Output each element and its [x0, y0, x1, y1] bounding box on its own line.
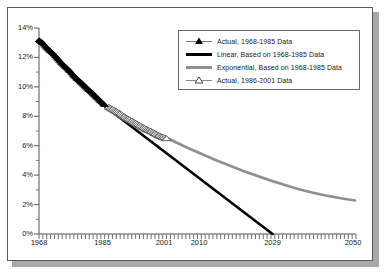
exponential-projection-line	[103, 105, 356, 201]
legend-row-actual-1968-1985: Actual, 1968-1985 Data	[184, 35, 355, 48]
chart-legend: Actual, 1968-1985 Data Linear, Based on …	[178, 30, 360, 90]
y-tick-label-0: 0%	[7, 230, 33, 238]
y-tick-label-6: 6%	[7, 142, 33, 150]
open-triangle-line-key	[184, 74, 214, 87]
x-tick-label-2050: 2050	[333, 239, 373, 247]
actual-1986-2001-markers	[104, 104, 171, 141]
legend-row-linear: Linear, Based on 1968-1985 Data	[184, 48, 355, 61]
actual-1968-1985-markers	[35, 37, 110, 107]
legend-label-actual-1968-1985: Actual, 1968-1985 Data	[214, 35, 292, 48]
y-tick-label-2: 2%	[7, 201, 33, 209]
legend-label-actual-1986-2001: Actual, 1986-2001 Data	[214, 74, 292, 87]
y-tick-label-10: 10%	[7, 83, 33, 91]
chart-frame: 14% 12% 10% 8% 6% 4% 2% 0% 1968 1985 200…	[7, 7, 373, 261]
filled-triangle-line-key	[184, 35, 214, 48]
y-tick-label-12: 12%	[7, 53, 33, 61]
y-tick-label-4: 4%	[7, 171, 33, 179]
x-tick-label-1968: 1968	[19, 239, 59, 247]
x-tick-label-2029: 2029	[253, 239, 293, 247]
thick-gray-line-key	[184, 61, 214, 74]
chart-figure: 14% 12% 10% 8% 6% 4% 2% 0% 1968 1985 200…	[0, 0, 385, 273]
y-tick-label-8: 8%	[7, 112, 33, 120]
x-tick-label-2010: 2010	[179, 239, 219, 247]
legend-label-exponential: Exponential, Based on 1968-1985 Data	[214, 61, 342, 74]
x-tick-label-1985: 1985	[83, 239, 123, 247]
legend-row-actual-1986-2001: Actual, 1986-2001 Data	[184, 74, 355, 87]
legend-label-linear: Linear, Based on 1968-1985 Data	[214, 48, 324, 61]
thick-black-line-key	[184, 48, 214, 61]
y-tick-label-14: 14%	[7, 24, 33, 32]
legend-row-exponential: Exponential, Based on 1968-1985 Data	[184, 61, 355, 74]
x-tick-label-2001: 2001	[144, 239, 184, 247]
